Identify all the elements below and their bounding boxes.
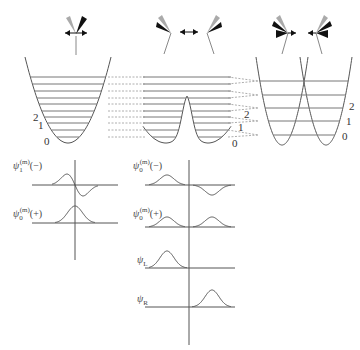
separated-wells-potential (256, 57, 352, 145)
double-well-level-label-1: 1 (238, 121, 244, 133)
separated-wells-level-label-0: 0 (342, 130, 348, 142)
double-well-molecule-right-icon (207, 15, 222, 54)
double-well-level-label-0: 0 (232, 137, 238, 149)
correlation-line (228, 108, 258, 111)
single-well-level-label-1: 1 (38, 119, 44, 131)
separated-well-left-curve (256, 57, 308, 145)
correlation-line (228, 81, 258, 84)
psi0-plus-right-lobe (193, 217, 231, 227)
inversion-arrow-icon (180, 29, 198, 35)
psi-R-curve (192, 290, 231, 307)
psi0-minus-left-lobe (149, 175, 185, 185)
separate-wells-molecule-left-icon (272, 15, 296, 54)
separate-wells-molecule-right-icon (308, 15, 332, 54)
psi-L-curve (149, 251, 187, 268)
single-well-level-label-0: 0 (44, 135, 50, 147)
double-well-level-label-2: 2 (244, 108, 250, 120)
double-well-molecule-left-icon (156, 15, 171, 54)
separated-wells-level-label-1: 1 (346, 115, 352, 127)
double-well-diagram: 2 1 0 2 1 0 2 1 0 ψ1(m)(−) ψ0(m)(+) ψ0(m… (0, 0, 360, 350)
psi0-minus-label: ψ0(m)(−) (133, 158, 162, 174)
wavefunction-panel-right (145, 160, 235, 345)
psi-R-label: ψR (137, 293, 148, 307)
psi-L-label: ψL (137, 254, 148, 268)
separated-wells-level-label-2: 2 (349, 100, 355, 112)
wavefunction-panel-left (32, 160, 118, 260)
psi0-minus-right-lobe (193, 185, 231, 195)
double-well-potential (143, 77, 231, 143)
correlation-line (228, 104, 258, 108)
psi1-minus-label: ψ1(m)(−) (13, 158, 42, 174)
double-well-curve (143, 96, 231, 143)
correlation-line (228, 95, 258, 98)
psi0-plus-label-right: ψ0(m)(+) (133, 206, 162, 222)
correlation-line (228, 77, 258, 81)
psi0-plus-label-left: ψ0(m)(+) (13, 206, 42, 222)
correlation-lines (108, 77, 258, 137)
single-well-molecule-icon (65, 16, 87, 55)
correlation-line (228, 91, 258, 95)
